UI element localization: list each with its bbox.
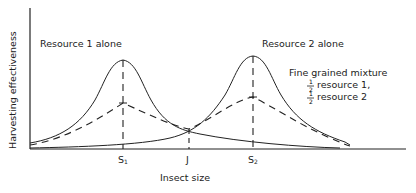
fraction-numerator-1: 1 (309, 78, 313, 85)
x-axis-label: Insect size (160, 172, 210, 183)
mixture-line2-label: resource 2 (317, 91, 367, 102)
s2-tick-label: S2 (248, 154, 258, 165)
resource1-label: Resource 1 alone (40, 38, 122, 49)
mixture-line1-label: resource 1, (317, 79, 370, 90)
y-axis-label: Harvesting effectiveness (7, 31, 18, 149)
s1-tick-label: S1 (118, 154, 128, 165)
harvesting-effectiveness-diagram: Harvesting effectiveness Resource 1 alon… (0, 0, 416, 193)
fraction-denominator-2: 2 (309, 98, 313, 105)
fraction-numerator-2: 1 (309, 90, 313, 97)
j-tick-label: J (185, 154, 189, 165)
mixture-title-label: Fine grained mixture (289, 67, 388, 78)
resource2-label: Resource 2 alone (262, 38, 344, 49)
